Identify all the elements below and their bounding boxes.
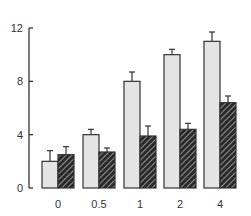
bar-light-0 (42, 161, 58, 188)
bar-dark-2 (180, 129, 196, 188)
bar-dark-4 (220, 103, 236, 188)
y-axis: 04812 (11, 22, 33, 194)
y-tick-label: 12 (11, 22, 23, 34)
x-category-label: 0 (55, 198, 61, 210)
bar-light-2 (164, 55, 180, 188)
x-category-label: 0.5 (91, 198, 106, 210)
x-axis-labels: 00.5124 (55, 198, 223, 210)
bars-group (42, 32, 236, 188)
y-tick-label: 0 (17, 182, 23, 194)
x-category-label: 2 (177, 198, 183, 210)
x-category-label: 1 (137, 198, 143, 210)
bar-dark-1 (140, 136, 156, 188)
bar-light-4 (204, 41, 220, 188)
y-tick-label: 4 (17, 129, 23, 141)
bar-light-0.5 (83, 135, 99, 188)
x-category-label: 4 (217, 198, 223, 210)
bar-dark-0 (58, 155, 74, 188)
bar-dark-0.5 (99, 152, 115, 188)
y-tick-label: 8 (17, 75, 23, 87)
bar-chart: 04812 00.5124 (0, 0, 251, 216)
bar-light-1 (124, 81, 140, 188)
